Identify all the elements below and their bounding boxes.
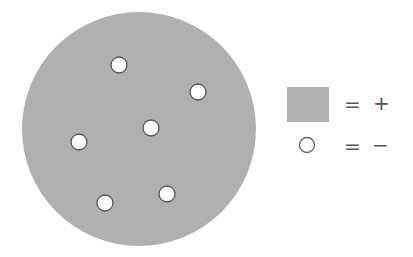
legend-white-circle-icon — [300, 138, 315, 153]
legend-equals-2: = — [344, 136, 361, 156]
negative-particle — [97, 195, 113, 211]
charge-diagram — [0, 0, 413, 257]
negative-particle — [159, 186, 175, 202]
legend-plus-sign: + — [373, 93, 390, 113]
positive-sphere — [22, 12, 256, 246]
negative-particle — [71, 134, 87, 150]
legend-minus-sign: − — [372, 135, 389, 155]
negative-particle — [190, 84, 206, 100]
legend-gray-square-icon — [287, 87, 329, 122]
negative-particle — [111, 57, 127, 73]
negative-particle — [143, 120, 159, 136]
legend-equals-1: = — [344, 94, 361, 114]
